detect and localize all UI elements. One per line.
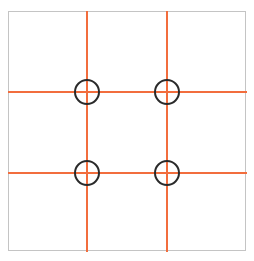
power-point-circle-top-right xyxy=(154,79,180,105)
grid-line-horizontal-bottom xyxy=(8,172,247,174)
power-point-circle-top-left xyxy=(74,79,100,105)
image-frame xyxy=(8,11,246,251)
grid-line-vertical-left xyxy=(86,11,88,252)
power-point-circle-bottom-left xyxy=(74,160,100,186)
grid-line-horizontal-top xyxy=(8,91,247,93)
grid-line-vertical-right xyxy=(166,11,168,252)
power-point-circle-bottom-right xyxy=(154,160,180,186)
